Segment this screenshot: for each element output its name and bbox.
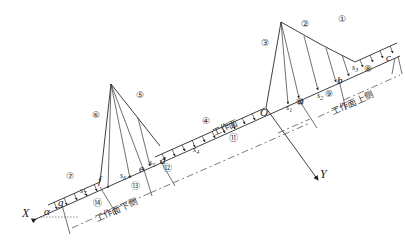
point-f: f [98,174,103,186]
point-c: c [386,51,391,63]
svg-text:⑤: ⑤ [136,90,144,100]
seam-baseline [36,56,400,219]
svg-text:③: ③ [261,38,269,48]
lower-pressure-peak [100,84,160,188]
svg-text:⑦: ⑦ [66,171,74,181]
svg-text:⑪: ⑪ [229,133,238,143]
svg-text:⑥: ⑥ [92,110,100,120]
upper-pressure-peak [266,22,355,108]
svg-text:⑭: ⑭ [93,198,102,208]
y-axis-label: Y [320,167,328,181]
svg-text:⑩: ⑩ [296,97,304,107]
svg-text:⑫: ⑫ [163,163,172,173]
svg-text:⑧: ⑧ [364,64,372,74]
svg-text:⑬: ⑬ [131,181,140,191]
svg-text:①: ① [338,14,346,24]
angle-label: α [44,205,50,217]
x-axis-label: X [21,206,30,220]
seam-diagram: X Y α O a b c d e f g s1 s2 s3 s4 s5 s6 … [0,0,405,241]
svg-text:s7: s7 [80,186,87,196]
svg-text:②: ② [301,19,309,29]
svg-text:s6: s6 [120,171,126,181]
svg-text:s3: s3 [352,63,358,73]
svg-text:⑨: ⑨ [325,89,333,99]
y-axis [266,108,318,180]
origin-label: O [260,106,268,118]
point-g: g [58,196,64,208]
svg-text:④: ④ [202,116,210,126]
svg-text:s5: s5 [149,158,155,168]
svg-text:s2: s2 [317,91,323,101]
upper-side-label: 工作面上侧 [329,88,375,116]
point-b: b [337,74,343,86]
point-e: e [139,162,144,174]
